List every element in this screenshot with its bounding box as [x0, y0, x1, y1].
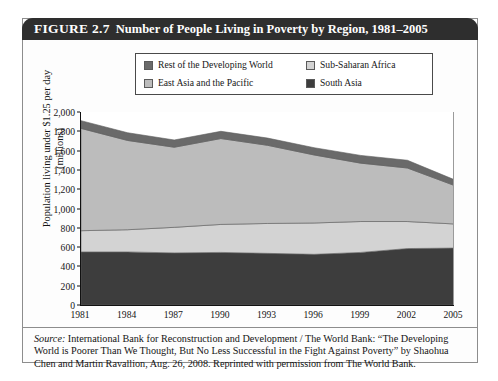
y-tick-label: 1,600 [53, 145, 75, 156]
legend-label: South Asia [320, 78, 362, 88]
x-tick-label: 1981 [70, 309, 89, 320]
x-tick-label: 1993 [257, 309, 276, 320]
plot-right-rule [453, 112, 454, 305]
legend-item-south-asia[interactable]: South Asia [306, 78, 442, 88]
legend-swatch-icon [306, 61, 315, 70]
area-series-south-asia [81, 248, 454, 305]
y-tick-label: 2,000 [53, 107, 75, 118]
y-tick-mark [77, 247, 80, 248]
legend-label: East Asia and the Pacific [158, 78, 253, 88]
y-tick-mark [77, 189, 80, 190]
legend-item-east-asia-and-the-pacific[interactable]: East Asia and the Pacific [144, 78, 306, 88]
legend-swatch-icon [144, 61, 153, 70]
y-tick-mark [77, 208, 80, 209]
stacked-area-chart [81, 112, 454, 305]
y-tick-mark [77, 227, 80, 228]
y-tick-label: 800 [61, 222, 75, 233]
y-tick-mark [77, 285, 80, 286]
y-tick-label: 600 [61, 242, 75, 253]
y-tick-mark [77, 112, 80, 113]
legend-label: Rest of the Developing World [158, 60, 273, 70]
plot-area [80, 112, 454, 306]
legend-swatch-icon [144, 79, 153, 88]
y-axis-title-line1: Population living under $1.25 per day [41, 70, 52, 228]
y-tick-mark [77, 150, 80, 151]
source-note: Source: International Bank for Reconstru… [22, 327, 478, 370]
x-tick-label: 2002 [397, 309, 416, 320]
x-tick-label: 1990 [210, 309, 229, 320]
legend-item-sub-saharan-africa[interactable]: Sub-Saharan Africa [306, 60, 442, 70]
legend-swatch-icon [306, 79, 315, 88]
legend-item-rest-of-the-developing-world[interactable]: Rest of the Developing World [144, 60, 306, 70]
y-tick-label: 200 [61, 280, 75, 291]
y-tick-label: 400 [61, 261, 75, 272]
y-tick-label: 1,200 [53, 184, 75, 195]
x-tick-label: 1996 [304, 309, 323, 320]
y-tick-mark [77, 266, 80, 267]
source-label: Source: [34, 333, 65, 344]
y-tick-label: 1,400 [53, 164, 75, 175]
chart-panel: Rest of the Developing World Sub-Saharan… [22, 40, 478, 325]
x-tick-label: 1984 [117, 309, 136, 320]
x-tick-label: 1987 [164, 309, 183, 320]
plot-wrap: 02004006008001,0001,2001,4001,6001,8002,… [80, 112, 453, 305]
x-tick-label: 2005 [443, 309, 462, 320]
y-tick-mark [77, 169, 80, 170]
figure-number: FIGURE 2.7 [34, 21, 110, 37]
source-text: International Bank for Reconstruction an… [34, 333, 449, 369]
legend-label: Sub-Saharan Africa [320, 60, 395, 70]
chart-legend: Rest of the Developing World Sub-Saharan… [135, 53, 433, 95]
y-tick-label: 1,800 [53, 126, 75, 137]
figure-title-bar: FIGURE 2.7 Number of People Living in Po… [22, 18, 478, 40]
y-tick-label: 1,000 [53, 203, 75, 214]
x-tick-label: 1999 [350, 309, 369, 320]
y-tick-mark [77, 305, 80, 306]
y-tick-mark [77, 131, 80, 132]
page-title: Number of People Living in Poverty by Re… [116, 22, 428, 37]
